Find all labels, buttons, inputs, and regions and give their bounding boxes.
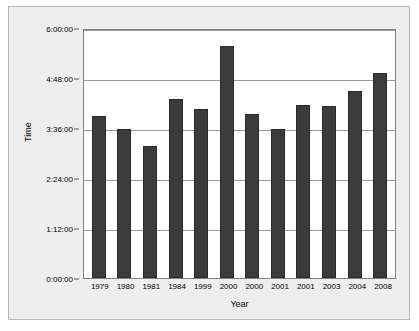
x-tick-label: 1980 [117,282,131,296]
bar[interactable] [373,73,387,278]
y-tick-label: 6:00:00 [46,25,73,34]
y-tick-label: 0:00:00 [46,275,73,284]
y-tick-mark [74,79,79,80]
bar[interactable] [245,114,259,278]
bar[interactable] [143,146,157,278]
x-tick-label: 1981 [142,282,156,296]
x-axis-tick-labels: 1979198019811984199920002000200120012003… [83,282,396,296]
bar[interactable] [322,106,336,278]
x-tick-label: 2004 [348,282,362,296]
bar[interactable] [169,99,183,278]
x-tick-label: 2008 [374,282,388,296]
y-tick-mark [74,29,79,30]
x-tick-label: 2003 [323,282,337,296]
x-tick-label: 1999 [194,282,208,296]
y-tick-label: 3:36:00 [46,125,73,134]
x-tick-label: 1984 [168,282,182,296]
bar[interactable] [92,116,106,279]
bar-series [84,30,395,278]
y-axis-tick-labels: 6:00:004:48:003:36:002:24:001:12:000:00:… [27,29,79,279]
y-tick-mark [74,129,79,130]
x-tick-label: 1979 [91,282,105,296]
x-axis-title: Year [83,299,396,309]
bar[interactable] [296,105,310,278]
y-tick-label: 2:24:00 [46,175,73,184]
bar[interactable] [194,109,208,278]
chart-figure: Time 6:00:004:48:003:36:002:24:001:12:00… [8,6,410,320]
y-tick-mark [74,279,79,280]
x-tick-label: 2000 [245,282,259,296]
y-tick-mark [74,229,79,230]
x-tick-label: 2000 [220,282,234,296]
plot-area [83,29,396,279]
y-tick-label: 1:12:00 [46,225,73,234]
y-tick-mark [74,179,79,180]
bar[interactable] [271,129,285,278]
y-tick-label: 4:48:00 [46,75,73,84]
bar[interactable] [348,91,362,279]
x-tick-label: 2001 [271,282,285,296]
bar[interactable] [220,46,234,278]
x-tick-label: 2001 [297,282,311,296]
bar[interactable] [117,129,131,278]
